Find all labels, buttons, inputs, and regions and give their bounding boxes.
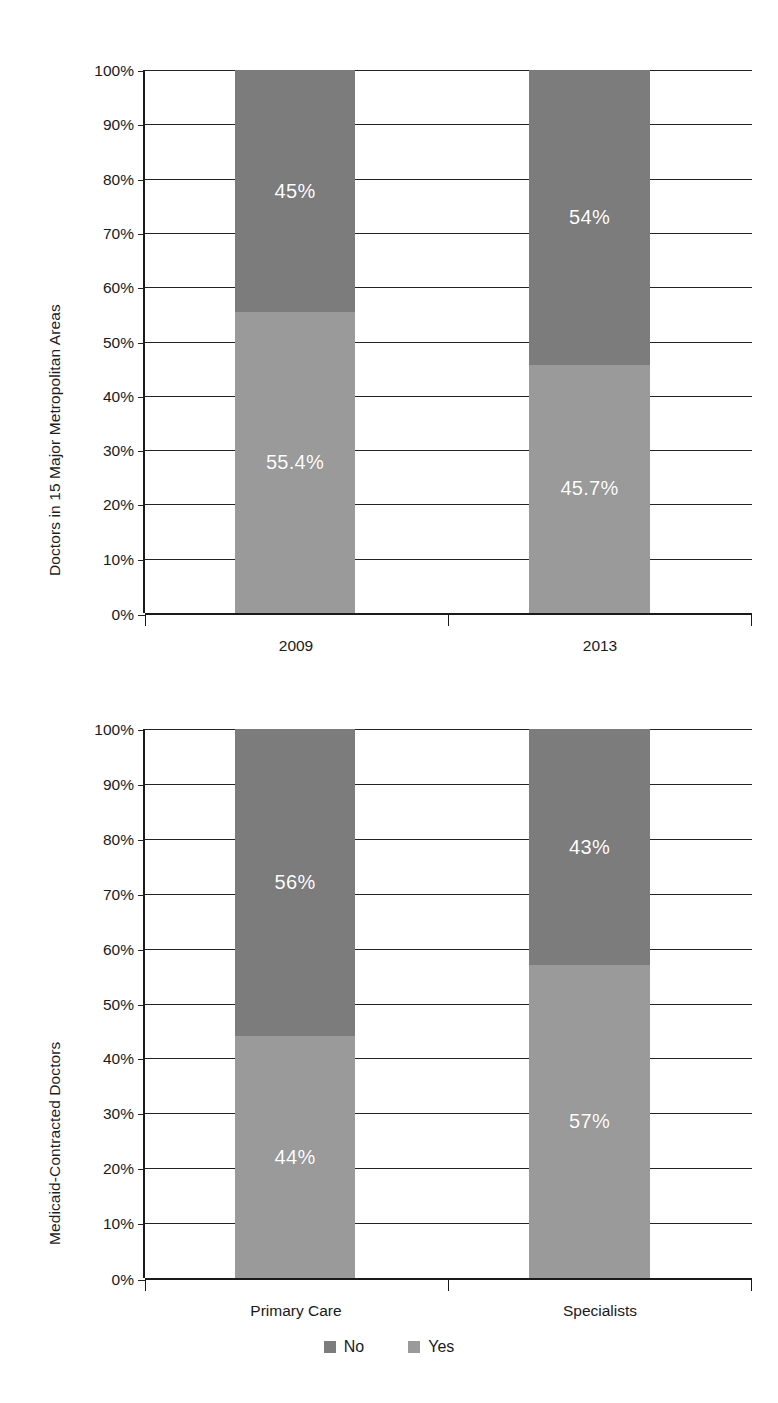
bar-primary-care-label-yes: 44% bbox=[275, 1146, 316, 1169]
ytick-label-100-bottom: 100% bbox=[94, 721, 134, 739]
xtick-mark-mid-top bbox=[448, 613, 449, 626]
ytick-label-20-bottom: 20% bbox=[103, 1160, 134, 1178]
ytick-mark-70 bbox=[138, 234, 145, 235]
ytick-mark-70-bottom bbox=[138, 895, 145, 896]
bar-2009[interactable]: 45% 55.4% bbox=[235, 70, 355, 613]
xtick-mark-left-bottom bbox=[145, 1278, 146, 1291]
bar-specialists-label-no: 43% bbox=[569, 836, 610, 859]
bar-2013-segment-no[interactable]: 54% bbox=[529, 70, 650, 365]
ytick-label-40: 40% bbox=[103, 388, 134, 406]
ytick-mark-10 bbox=[138, 560, 145, 561]
ytick-label-90: 90% bbox=[103, 116, 134, 134]
xtick-label-2013: 2013 bbox=[583, 637, 617, 655]
ytick-label-100: 100% bbox=[94, 62, 134, 80]
ytick-label-10: 10% bbox=[103, 551, 134, 569]
xtick-label-primary-care: Primary Care bbox=[250, 1302, 341, 1320]
ytick-label-0: 0% bbox=[112, 606, 134, 624]
legend-item-no[interactable]: No bbox=[324, 1338, 364, 1356]
bar-2013-label-yes: 45.7% bbox=[560, 477, 618, 500]
ytick-mark-100-bottom bbox=[138, 730, 145, 731]
legend-label-no: No bbox=[344, 1338, 364, 1356]
xtick-mark-left-top bbox=[145, 613, 146, 626]
xtick-label-2009: 2009 bbox=[279, 637, 313, 655]
bar-specialists[interactable]: 43% 57% bbox=[529, 729, 650, 1278]
legend-swatch-yes-icon bbox=[408, 1341, 420, 1353]
ytick-label-40-bottom: 40% bbox=[103, 1050, 134, 1068]
ytick-label-80: 80% bbox=[103, 171, 134, 189]
ytick-label-70: 70% bbox=[103, 225, 134, 243]
bar-specialists-segment-yes[interactable]: 57% bbox=[529, 965, 650, 1278]
xtick-mark-right-bottom bbox=[751, 1278, 752, 1291]
plot-area-bottom: 100% 90% 80% 70% 60% 50% bbox=[143, 729, 752, 1278]
y-axis-title-top: Doctors in 15 Major Metropolitan Areas bbox=[46, 304, 64, 576]
bar-specialists-segment-no[interactable]: 43% bbox=[529, 729, 650, 965]
ytick-mark-90-bottom bbox=[138, 785, 145, 786]
ytick-label-50-bottom: 50% bbox=[103, 996, 134, 1014]
legend-label-yes: Yes bbox=[428, 1338, 454, 1356]
ytick-mark-60-bottom bbox=[138, 950, 145, 951]
bar-2013-segment-yes[interactable]: 45.7% bbox=[529, 365, 650, 613]
ytick-label-50: 50% bbox=[103, 334, 134, 352]
ytick-mark-30-bottom bbox=[138, 1114, 145, 1115]
chart-medicaid-contracted: Medicaid-Contracted Doctors 100% 90% 80%… bbox=[0, 690, 778, 1403]
bar-2009-label-no: 45% bbox=[275, 180, 316, 203]
ytick-mark-20 bbox=[138, 505, 145, 506]
ytick-mark-50-bottom bbox=[138, 1005, 145, 1006]
chart-doctors-metropolitan: Doctors in 15 Major Metropolitan Areas 1… bbox=[0, 0, 778, 690]
bar-2013[interactable]: 54% 45.7% bbox=[529, 70, 650, 613]
ytick-label-60-bottom: 60% bbox=[103, 941, 134, 959]
ytick-mark-60 bbox=[138, 288, 145, 289]
legend-swatch-no-icon bbox=[324, 1341, 336, 1353]
ytick-mark-40-bottom bbox=[138, 1059, 145, 1060]
ytick-mark-0 bbox=[138, 615, 145, 616]
ytick-mark-40 bbox=[138, 397, 145, 398]
ytick-label-30-bottom: 30% bbox=[103, 1105, 134, 1123]
ytick-label-30: 30% bbox=[103, 442, 134, 460]
stacked-bar-figure: Doctors in 15 Major Metropolitan Areas 1… bbox=[0, 0, 778, 1403]
ytick-mark-90 bbox=[138, 125, 145, 126]
ytick-label-70-bottom: 70% bbox=[103, 886, 134, 904]
bar-primary-care[interactable]: 56% 44% bbox=[235, 729, 355, 1278]
legend: No Yes bbox=[0, 1338, 778, 1356]
ytick-mark-50 bbox=[138, 343, 145, 344]
xtick-mark-right-top bbox=[751, 613, 752, 626]
bar-2009-label-yes: 55.4% bbox=[266, 451, 324, 474]
bar-primary-care-segment-yes[interactable]: 44% bbox=[235, 1036, 355, 1278]
xtick-label-specialists: Specialists bbox=[563, 1302, 637, 1320]
bar-primary-care-segment-no[interactable]: 56% bbox=[235, 729, 355, 1036]
ytick-mark-10-bottom bbox=[138, 1224, 145, 1225]
plot-area-top: 100% 90% 80% 70% 60% 50% bbox=[143, 70, 752, 613]
ytick-mark-30 bbox=[138, 451, 145, 452]
ytick-label-0-bottom: 0% bbox=[112, 1271, 134, 1289]
ytick-label-60: 60% bbox=[103, 279, 134, 297]
bar-2009-segment-no[interactable]: 45% bbox=[235, 70, 355, 312]
ytick-label-90-bottom: 90% bbox=[103, 776, 134, 794]
bar-specialists-label-yes: 57% bbox=[569, 1110, 610, 1133]
xtick-mark-mid-bottom bbox=[448, 1278, 449, 1291]
bar-2009-segment-yes[interactable]: 55.4% bbox=[235, 312, 355, 613]
legend-item-yes[interactable]: Yes bbox=[408, 1338, 454, 1356]
ytick-mark-80-bottom bbox=[138, 840, 145, 841]
ytick-mark-80 bbox=[138, 180, 145, 181]
ytick-mark-100 bbox=[138, 71, 145, 72]
bar-2013-label-no: 54% bbox=[569, 206, 610, 229]
ytick-mark-0-bottom bbox=[138, 1280, 145, 1281]
ytick-label-80-bottom: 80% bbox=[103, 831, 134, 849]
ytick-label-10-bottom: 10% bbox=[103, 1215, 134, 1233]
ytick-label-20: 20% bbox=[103, 496, 134, 514]
ytick-mark-20-bottom bbox=[138, 1169, 145, 1170]
y-axis-title-bottom: Medicaid-Contracted Doctors bbox=[46, 1042, 64, 1245]
bar-primary-care-label-no: 56% bbox=[275, 871, 316, 894]
